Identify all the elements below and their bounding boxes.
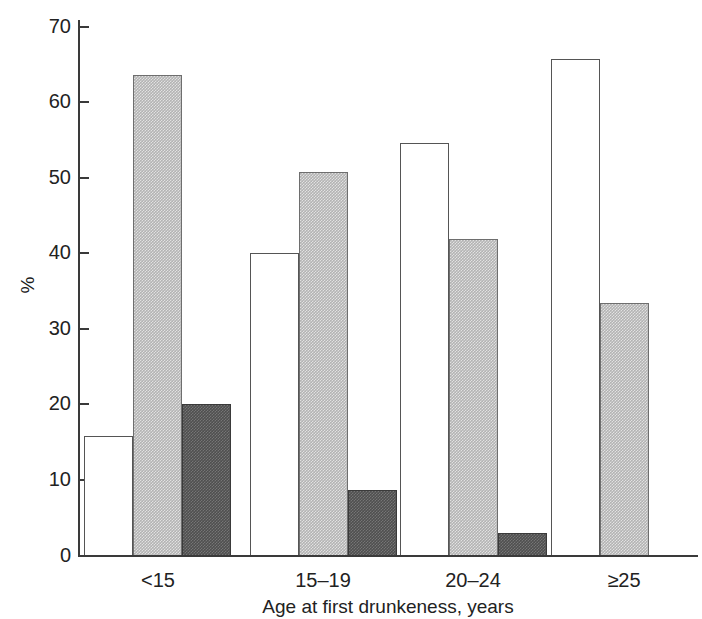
plot-area	[0, 0, 702, 619]
bar-light-ge25	[600, 303, 649, 556]
bar-white-15-19	[250, 253, 299, 556]
bar-white-20-24	[400, 143, 449, 556]
bar-white-ge25	[551, 59, 600, 556]
bar-dark-20-24	[498, 533, 547, 556]
x-category-label-20-24: 20–24	[423, 568, 523, 592]
x-category-label-ge25: ≥25	[574, 568, 674, 592]
bar-dark-lt15	[182, 404, 231, 556]
x-category-label-15-19: 15–19	[273, 568, 373, 592]
bar-chart: % 70 60 50 40 30 20 10 0	[0, 0, 702, 619]
x-axis-title: Age at first drunkeness, years	[78, 596, 698, 618]
bar-white-lt15	[84, 436, 133, 556]
bar-light-15-19	[299, 172, 348, 556]
x-category-label-lt15: <15	[108, 568, 208, 592]
bar-light-20-24	[449, 239, 498, 556]
bar-light-lt15	[133, 75, 182, 556]
x-axis-line	[78, 555, 698, 557]
bar-dark-15-19	[348, 490, 397, 557]
